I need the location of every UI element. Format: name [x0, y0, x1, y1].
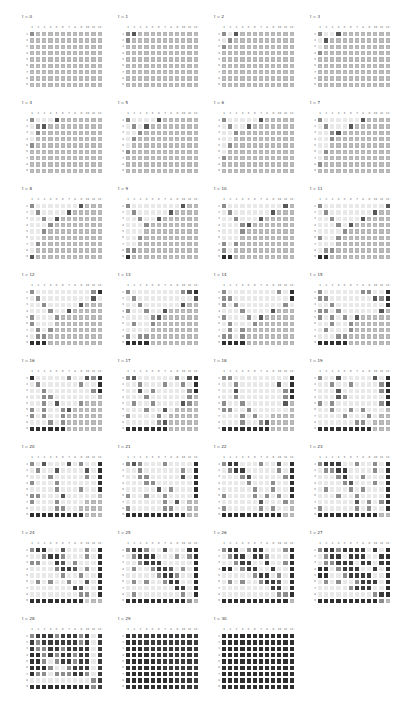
row-label: 1 [216, 549, 220, 552]
row-label: 5 [312, 316, 316, 319]
panel-title: t = 7 [310, 100, 320, 105]
row-label: 8 [216, 249, 220, 252]
row-label: 5 [24, 144, 28, 147]
column-label: 12 [385, 542, 391, 545]
row-label: 2 [120, 555, 124, 558]
heatmap-grid: ····∞∞∞∞∞∞··∞∞∞∞∞∞∞∞··∞∞∞∞∞∞∞∞∞·∞∞∞∞∞∞∞∞… [125, 117, 199, 174]
row-label: 1 [312, 549, 316, 552]
row-label: 5 [216, 58, 220, 61]
row-label: 2 [120, 211, 124, 214]
heatmap-grid: ···∞∞∞∞∞∞∞·∞∞∞∞∞∞∞∞∞·∞∞∞∞∞∞∞∞∞∞·∞∞∞∞∞∞∞∞… [29, 117, 103, 174]
row-label: 2 [216, 555, 220, 558]
heatmap-grid: ·····∞∞∞∞∞···∞∞∞∞∞∞∞··∞∞∞∞∞∞∞∞∞··∞∞∞∞∞∞∞… [221, 117, 295, 174]
row-label: 6 [216, 580, 220, 583]
heatmap-cell: · [97, 684, 103, 690]
row-label: 8 [216, 507, 220, 510]
row-label: 1 [216, 205, 220, 208]
heatmap-grid: ········································… [125, 633, 199, 690]
row-label: 4 [216, 224, 220, 227]
column-label: 12 [289, 26, 295, 29]
row-label: 5 [120, 58, 124, 61]
panel-title: t = 13 [118, 272, 131, 277]
row-label: 7 [120, 71, 124, 74]
row-label: 3 [120, 647, 124, 650]
row-label: 8 [216, 335, 220, 338]
row-label: 5 [24, 402, 28, 405]
heatmap-grid: ··································∞·····… [29, 375, 103, 432]
panel-title: t = 14 [214, 272, 227, 277]
row-label: 3 [120, 131, 124, 134]
row-label: 3 [216, 647, 220, 650]
row-label: 4 [120, 138, 124, 141]
row-label: 9 [216, 685, 220, 688]
row-label: 9 [216, 599, 220, 602]
panel-t14: t = 14123456789101112123456789··········… [214, 272, 304, 352]
row-label: 3 [120, 475, 124, 478]
row-label: 2 [216, 641, 220, 644]
row-label: 7 [24, 501, 28, 504]
row-label: 5 [120, 144, 124, 147]
heatmap-cell: ∞ [289, 512, 295, 518]
row-label: 8 [312, 77, 316, 80]
row-label: 5 [216, 574, 220, 577]
row-label: 5 [216, 488, 220, 491]
row-label: 5 [120, 574, 124, 577]
row-label: 2 [120, 641, 124, 644]
row-label: 4 [216, 482, 220, 485]
row-label: 4 [120, 654, 124, 657]
column-label: 12 [97, 112, 103, 115]
heatmap-grid: ·········∞·······∞∞∞·····∞∞∞∞∞···∞∞∞∞∞∞∞… [221, 203, 295, 260]
heatmap-grid: ··························∞∞∞·····∞∞∞∞∞·… [29, 289, 103, 346]
heatmap-grid: ········································… [317, 547, 391, 604]
panel-t16: t = 16123456789101112123456789··········… [22, 358, 112, 438]
row-label: 2 [216, 297, 220, 300]
heatmap-cell: ∞ [193, 598, 199, 604]
row-label: 2 [24, 39, 28, 42]
column-label: 12 [97, 542, 103, 545]
row-label: 5 [216, 230, 220, 233]
heatmap-grid: ······∞∞∞∞····∞∞∞∞∞∞··∞∞∞∞∞∞∞∞··∞∞∞∞∞∞∞∞… [317, 117, 391, 174]
row-label: 2 [24, 555, 28, 558]
row-label: 4 [216, 138, 220, 141]
row-label: 3 [312, 389, 316, 392]
panel-title: t = 25 [118, 530, 131, 535]
panel-t22: t = 22123456789101112123456789··········… [214, 444, 304, 524]
row-label: 6 [216, 494, 220, 497]
row-label: 8 [312, 507, 316, 510]
column-label: 12 [385, 112, 391, 115]
heatmap-grid: ········································… [29, 547, 103, 604]
row-label: 5 [120, 230, 124, 233]
heatmap-cell: ∞ [385, 426, 391, 432]
row-label: 7 [216, 415, 220, 418]
row-label: 2 [120, 297, 124, 300]
row-label: 3 [24, 561, 28, 564]
row-label: 9 [24, 341, 28, 344]
heatmap-grid: ·······∞∞∞·····∞∞∞∞∞···∞∞∞∞∞∞∞···∞∞∞∞∞∞∞… [29, 203, 103, 260]
row-label: 7 [312, 157, 316, 160]
column-label: 12 [193, 284, 199, 287]
heatmap-grid: ·∞∞∞∞∞∞∞∞∞·∞∞∞∞∞∞∞∞∞∞∞∞∞∞∞∞∞∞∞∞∞∞∞∞∞∞∞∞∞… [221, 31, 295, 88]
panel-title: t = 24 [22, 530, 35, 535]
row-label: 2 [216, 211, 220, 214]
row-label: 4 [312, 568, 316, 571]
row-label: 5 [216, 402, 220, 405]
row-label: 9 [216, 427, 220, 430]
column-label: 12 [193, 456, 199, 459]
row-label: 9 [24, 169, 28, 172]
heatmap-cell: ∞ [385, 82, 391, 88]
row-label: 6 [216, 150, 220, 153]
row-label: 3 [120, 561, 124, 564]
row-label: 2 [216, 39, 220, 42]
column-label: 12 [289, 112, 295, 115]
row-label: 9 [24, 685, 28, 688]
row-label: 8 [120, 679, 124, 682]
heatmap-cell: ∞ [193, 82, 199, 88]
panel-t17: t = 17123456789101112123456789··········… [118, 358, 208, 438]
row-label: 2 [120, 39, 124, 42]
row-label: 5 [24, 58, 28, 61]
row-label: 7 [24, 157, 28, 160]
row-label: 1 [24, 635, 28, 638]
row-label: 2 [24, 125, 28, 128]
row-label: 1 [120, 205, 124, 208]
row-label: 9 [120, 341, 124, 344]
